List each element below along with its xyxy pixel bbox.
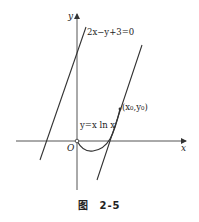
curve-equation-label: y=x ln x [80,121,115,130]
figure-caption: 图2-5 [0,197,199,212]
y-axis-label: y [68,12,73,21]
caption-number: 2-5 [99,200,120,211]
tangent-point [119,108,122,111]
origin-point [75,139,79,143]
caption-prefix: 图 [78,200,89,211]
line-equation-label: 2x−y+3=0 [87,28,134,37]
origin-label: O [67,144,74,153]
x-axis-label: x [181,144,186,153]
tangent-point-label: (x₀,y₀) [122,103,148,112]
curve-xlnx [77,109,120,151]
line-2x-y-3 [40,27,86,160]
